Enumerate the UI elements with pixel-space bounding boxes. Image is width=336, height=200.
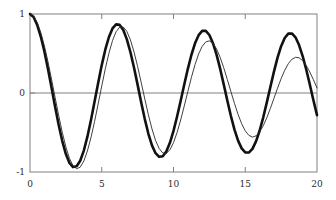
x-tick-label-0: 0 [27,180,33,189]
y-tick-label-0: 0 [8,89,25,98]
series-line-damped-oscillation-thick [30,14,317,167]
series-line-damped-oscillation-thin [30,14,317,169]
x-tick-label-20: 20 [311,180,322,189]
plot-area [0,0,336,200]
x-tick-marks-bottom [102,167,246,172]
data-series-group [30,14,317,169]
y-tick-label--1: -1 [8,168,25,177]
x-tick-marks-top [102,14,246,19]
x-tick-label-15: 15 [240,180,251,189]
x-tick-label-10: 10 [168,180,179,189]
x-tick-label-5: 5 [99,180,105,189]
chart-figure: 05101520 -101 [0,0,336,200]
y-tick-label-1: 1 [8,10,25,19]
